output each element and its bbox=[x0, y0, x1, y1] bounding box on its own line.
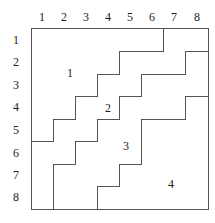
column-label: 3 bbox=[83, 10, 89, 24]
row-label: 2 bbox=[13, 55, 19, 69]
column-label: 6 bbox=[149, 10, 155, 24]
row-label: 8 bbox=[13, 190, 19, 204]
region-labels: 1 2 3 4 bbox=[67, 66, 174, 191]
column-label: 7 bbox=[171, 10, 177, 24]
column-label: 1 bbox=[39, 10, 45, 24]
staircase-partition-diagram: 1 2 3 4 5 6 7 8 1 2 3 4 5 6 7 8 1 2 3 4 bbox=[0, 0, 215, 223]
row-label: 1 bbox=[13, 33, 19, 47]
column-label: 4 bbox=[105, 10, 111, 24]
region-label-4: 4 bbox=[168, 177, 174, 191]
row-labels: 1 2 3 4 5 6 7 8 bbox=[13, 33, 19, 204]
column-label: 5 bbox=[127, 10, 133, 24]
boundary-3-4 bbox=[98, 97, 209, 210]
column-label: 2 bbox=[61, 10, 67, 24]
column-label: 8 bbox=[194, 10, 200, 24]
row-label: 3 bbox=[13, 78, 19, 92]
row-label: 5 bbox=[13, 123, 19, 137]
region-label-2: 2 bbox=[105, 101, 111, 115]
row-label: 7 bbox=[13, 168, 19, 182]
boundary-2-3 bbox=[54, 52, 209, 210]
region-label-1: 1 bbox=[67, 66, 73, 80]
region-label-3: 3 bbox=[123, 139, 129, 153]
row-label: 4 bbox=[13, 100, 19, 114]
column-labels: 1 2 3 4 5 6 7 8 bbox=[39, 10, 200, 24]
row-label: 6 bbox=[13, 146, 19, 160]
